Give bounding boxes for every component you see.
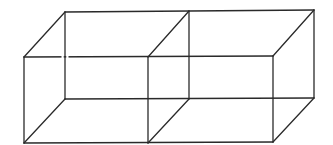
line-break-gap bbox=[62, 56, 64, 59]
edge-front-mid-top-to-back-mid-top bbox=[148, 11, 189, 57]
double-box-wireframe-diagram bbox=[0, 0, 333, 145]
line-break-gap bbox=[66, 56, 68, 59]
edge-front-right-bottom-to-back-right-bottom bbox=[273, 98, 314, 142]
edge-front-right-top-to-back-right-top bbox=[273, 10, 314, 56]
edge-front-left-top-to-back-left-top bbox=[24, 12, 65, 57]
edge-front-left-bottom-to-back-left-bottom bbox=[24, 99, 65, 143]
wireframe-svg bbox=[0, 0, 333, 145]
edge-front-mid-bottom-to-back-mid-bottom bbox=[148, 99, 189, 143]
